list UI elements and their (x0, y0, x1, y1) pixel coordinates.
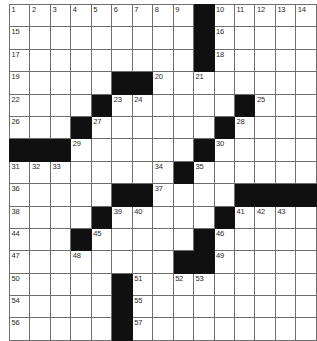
crossword-cell[interactable] (132, 139, 152, 161)
crossword-cell[interactable] (30, 94, 50, 116)
crossword-cell[interactable] (71, 94, 91, 116)
crossword-cell[interactable] (91, 161, 111, 183)
crossword-cell[interactable] (91, 27, 111, 49)
crossword-cell[interactable]: 4 (71, 5, 91, 27)
crossword-cell[interactable] (91, 49, 111, 71)
crossword-cell[interactable]: 48 (71, 251, 91, 273)
crossword-cell[interactable] (275, 228, 295, 250)
crossword-cell[interactable] (275, 94, 295, 116)
crossword-cell[interactable]: 38 (10, 206, 30, 228)
crossword-cell[interactable]: 18 (214, 49, 234, 71)
crossword-grid[interactable]: 1234567891011121314151617181920212223242… (9, 4, 317, 341)
crossword-cell[interactable] (71, 27, 91, 49)
crossword-cell[interactable] (214, 184, 234, 206)
crossword-cell[interactable] (296, 251, 317, 273)
crossword-cell[interactable]: 57 (132, 318, 152, 340)
crossword-cell[interactable] (153, 273, 173, 295)
crossword-cell[interactable] (30, 296, 50, 318)
crossword-cell[interactable] (296, 27, 317, 49)
crossword-cell[interactable]: 26 (10, 116, 30, 138)
crossword-cell[interactable] (173, 228, 193, 250)
crossword-cell[interactable] (50, 273, 70, 295)
crossword-cell[interactable] (153, 318, 173, 340)
crossword-cell[interactable] (275, 273, 295, 295)
crossword-cell[interactable] (91, 296, 111, 318)
crossword-cell[interactable] (275, 318, 295, 340)
crossword-cell[interactable]: 23 (112, 94, 132, 116)
crossword-cell[interactable]: 40 (132, 206, 152, 228)
crossword-cell[interactable] (30, 72, 50, 94)
crossword-cell[interactable] (132, 49, 152, 71)
crossword-cell[interactable]: 36 (10, 184, 30, 206)
crossword-cell[interactable] (275, 139, 295, 161)
crossword-cell[interactable] (173, 139, 193, 161)
crossword-cell[interactable]: 8 (153, 5, 173, 27)
crossword-cell[interactable]: 42 (255, 206, 275, 228)
crossword-cell[interactable] (214, 72, 234, 94)
crossword-cell[interactable] (255, 116, 275, 138)
crossword-cell[interactable] (153, 139, 173, 161)
crossword-cell[interactable] (153, 116, 173, 138)
crossword-cell[interactable] (296, 228, 317, 250)
crossword-cell[interactable] (50, 184, 70, 206)
crossword-cell[interactable]: 41 (234, 206, 254, 228)
crossword-cell[interactable] (194, 116, 214, 138)
crossword-cell[interactable] (112, 139, 132, 161)
crossword-cell[interactable] (71, 318, 91, 340)
crossword-cell[interactable] (50, 49, 70, 71)
crossword-cell[interactable] (132, 228, 152, 250)
crossword-cell[interactable] (255, 318, 275, 340)
crossword-cell[interactable] (153, 296, 173, 318)
crossword-cell[interactable]: 15 (10, 27, 30, 49)
crossword-cell[interactable] (50, 27, 70, 49)
crossword-cell[interactable]: 7 (132, 5, 152, 27)
crossword-cell[interactable]: 14 (296, 5, 317, 27)
crossword-cell[interactable] (255, 296, 275, 318)
crossword-cell[interactable] (234, 273, 254, 295)
crossword-cell[interactable]: 52 (173, 273, 193, 295)
crossword-cell[interactable] (50, 318, 70, 340)
crossword-cell[interactable]: 20 (153, 72, 173, 94)
crossword-cell[interactable] (30, 251, 50, 273)
crossword-cell[interactable] (153, 251, 173, 273)
crossword-cell[interactable]: 50 (10, 273, 30, 295)
crossword-cell[interactable] (91, 139, 111, 161)
crossword-cell[interactable] (91, 318, 111, 340)
crossword-cell[interactable]: 11 (234, 5, 254, 27)
crossword-cell[interactable] (132, 251, 152, 273)
crossword-cell[interactable] (296, 116, 317, 138)
crossword-cell[interactable] (296, 161, 317, 183)
crossword-cell[interactable] (173, 116, 193, 138)
crossword-cell[interactable]: 56 (10, 318, 30, 340)
crossword-cell[interactable] (50, 116, 70, 138)
crossword-cell[interactable] (30, 184, 50, 206)
crossword-cell[interactable] (234, 318, 254, 340)
crossword-cell[interactable] (173, 27, 193, 49)
crossword-cell[interactable] (214, 318, 234, 340)
crossword-cell[interactable] (112, 251, 132, 273)
crossword-cell[interactable] (50, 72, 70, 94)
crossword-cell[interactable]: 32 (30, 161, 50, 183)
crossword-cell[interactable] (234, 296, 254, 318)
crossword-cell[interactable] (194, 318, 214, 340)
crossword-cell[interactable] (296, 206, 317, 228)
crossword-cell[interactable] (234, 161, 254, 183)
crossword-cell[interactable] (194, 94, 214, 116)
crossword-cell[interactable] (296, 296, 317, 318)
crossword-cell[interactable]: 28 (234, 116, 254, 138)
crossword-cell[interactable] (112, 161, 132, 183)
crossword-cell[interactable]: 2 (30, 5, 50, 27)
crossword-cell[interactable] (91, 72, 111, 94)
crossword-cell[interactable] (30, 27, 50, 49)
crossword-cell[interactable] (50, 228, 70, 250)
crossword-cell[interactable] (112, 116, 132, 138)
crossword-cell[interactable]: 22 (10, 94, 30, 116)
crossword-cell[interactable] (173, 318, 193, 340)
crossword-cell[interactable] (173, 49, 193, 71)
crossword-cell[interactable] (296, 94, 317, 116)
crossword-cell[interactable] (255, 72, 275, 94)
crossword-cell[interactable] (71, 49, 91, 71)
crossword-cell[interactable] (50, 251, 70, 273)
crossword-cell[interactable] (194, 206, 214, 228)
crossword-cell[interactable] (153, 49, 173, 71)
